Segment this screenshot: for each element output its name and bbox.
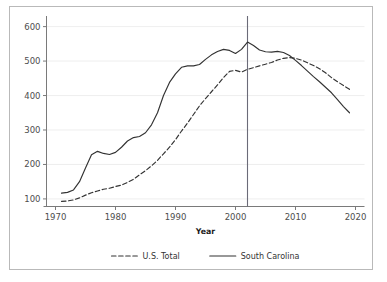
series-lines: [62, 42, 350, 201]
gridlines: [47, 27, 365, 199]
series-line-us-total: [62, 58, 350, 202]
chart-legend[interactable]: U.S. TotalSouth Carolina: [112, 252, 300, 261]
legend-label-us-total[interactable]: U.S. Total: [143, 252, 180, 261]
y-tick-label: 100: [24, 194, 40, 204]
y-tick-label: 600: [24, 22, 40, 32]
line-chart: 1002003004005006001970198019902000201020…: [0, 0, 387, 282]
y-tick-label: 400: [24, 91, 40, 101]
x-tick-label: 1980: [105, 212, 127, 222]
tick-labels: 1002003004005006001970198019902000201020…: [24, 22, 366, 222]
axes: [43, 16, 365, 210]
x-axis-title: Year: [195, 227, 215, 236]
x-tick-label: 2020: [345, 212, 367, 222]
y-tick-label: 200: [24, 159, 40, 169]
legend-label-south-carolina[interactable]: South Carolina: [241, 252, 300, 261]
chart-figure: 1002003004005006001970198019902000201020…: [0, 0, 387, 282]
series-line-south-carolina: [62, 42, 350, 193]
x-tick-label: 1970: [45, 212, 67, 222]
y-tick-label: 300: [24, 125, 40, 135]
x-tick-label: 2000: [225, 212, 247, 222]
y-tick-label: 500: [24, 56, 40, 66]
x-tick-label: 2010: [285, 212, 307, 222]
x-tick-label: 1990: [165, 212, 187, 222]
